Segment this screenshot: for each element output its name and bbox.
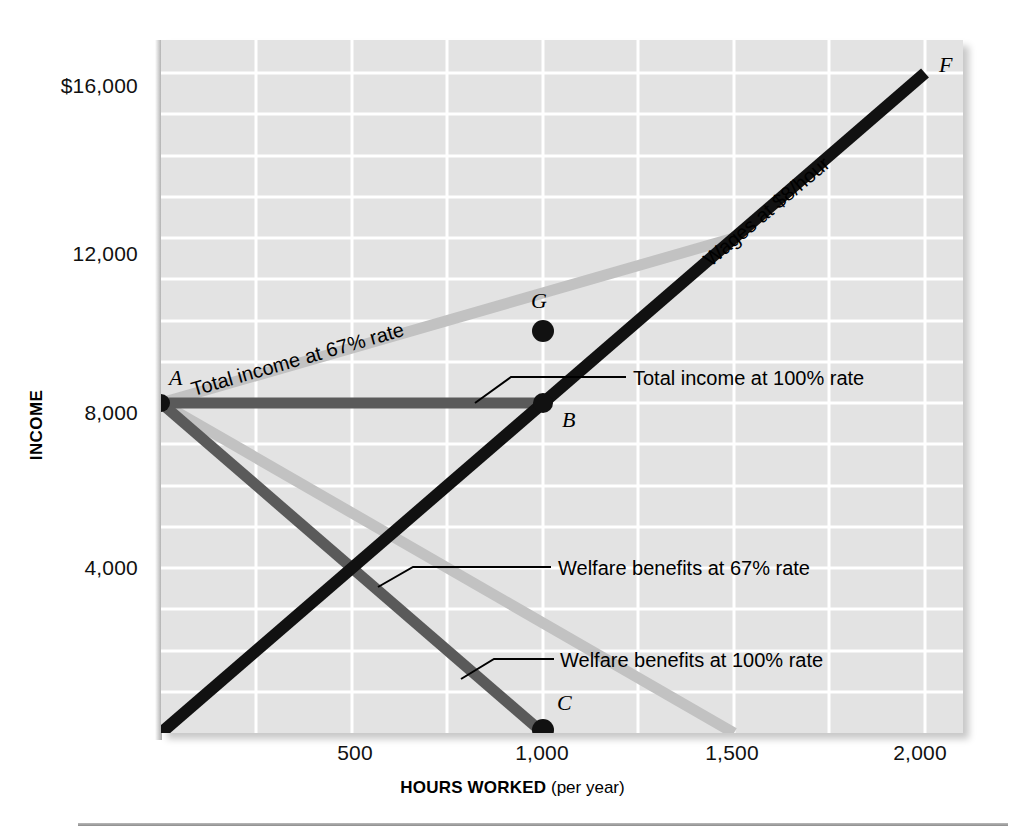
bottom-divider [78,823,1008,826]
point-G-dot [532,320,554,342]
plot-area: Total income at 67% rate Wages at $8/hou… [161,40,963,733]
x-tick-1000: 1,000 [477,741,607,765]
x-tick-2000: 2,000 [855,741,985,765]
label-welfare-100: Welfare benefits at 100% rate [560,649,823,672]
x-tick-500: 500 [290,741,420,765]
x-axis-title-main: HOURS WORKED [400,778,546,797]
point-label-A: A [169,365,182,391]
y-tick-16000: $16,000 [18,74,138,98]
point-label-G: G [531,288,547,314]
label-total-income-100: Total income at 100% rate [633,367,864,390]
y-tick-12000: 12,000 [18,242,138,266]
point-label-C: C [557,690,572,716]
x-tick-1500: 1,500 [667,741,797,765]
label-welfare-67: Welfare benefits at 67% rate [558,557,810,580]
y-tick-4000: 4,000 [18,556,138,580]
point-label-B: B [562,407,575,433]
point-B-dot [533,393,553,413]
welfare-income-chart-figure: $16,000 12,000 8,000 4,000 500 1,000 1,5… [0,0,1025,832]
point-label-F: F [939,52,952,78]
x-axis-title-sub: (per year) [551,778,625,797]
x-axis-title: HOURS WORKED (per year) [0,778,1025,798]
y-axis-title: INCOME [27,350,47,500]
